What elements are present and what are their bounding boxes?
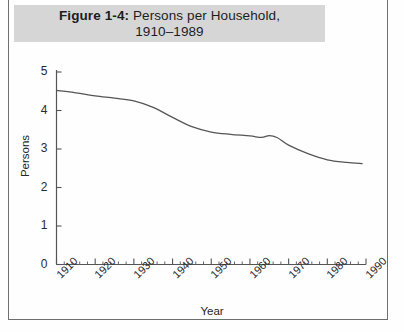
y-tick-label: 4 — [26, 103, 48, 117]
y-tick-label: 0 — [26, 257, 48, 271]
x-axis-title: Year — [56, 305, 368, 321]
y-tick-label: 5 — [26, 64, 48, 78]
data-series-line — [57, 90, 363, 163]
y-axis-title: Persons — [19, 118, 35, 194]
y-tick-label: 1 — [26, 218, 48, 232]
chart-svg — [0, 0, 404, 332]
chart-plot-area: 012345 191019201930194019501960197019801… — [0, 0, 404, 332]
figure-container: Figure 1-4: Persons per Household, 1910–… — [0, 0, 404, 332]
y-axis-ticks — [57, 72, 62, 265]
chart-axes — [57, 70, 367, 265]
